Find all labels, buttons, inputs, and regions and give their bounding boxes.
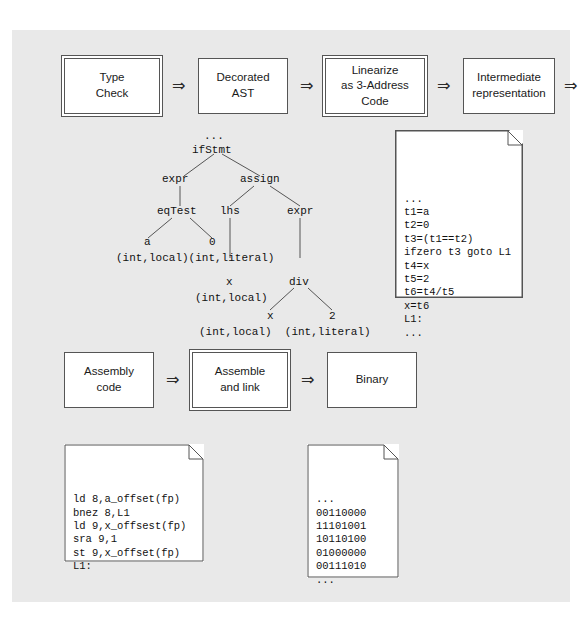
binary-code-document: ... 00110000 11101001 10110100 01000000 …	[307, 444, 399, 578]
three-address-code-text: ... t1=a t2=0 t3=(t1==t2) ifzero t3 goto…	[395, 184, 523, 340]
ast-leaf-a: a	[144, 236, 151, 248]
three-address-code-document: ... t1=a t2=0 t3=(t1==t2) ifzero t3 goto…	[395, 130, 523, 298]
ast-node-expr-right: expr	[287, 205, 313, 217]
stage-assembly-code[interactable]: Assembly code	[64, 352, 154, 408]
ast-annotation-eq-operands: (int,local)(int,literal)	[116, 252, 274, 264]
ast-leaf-x-lhs: x	[226, 276, 233, 288]
assembly-code-text: ld 8,a_offset(fp) bnez 8,L1 ld 9,x_offse…	[64, 484, 204, 573]
ast-leaf-x-div: x	[267, 310, 274, 322]
ast-leaf-two: 2	[329, 310, 336, 322]
ast-node-lhs: lhs	[220, 205, 240, 217]
stage-intermediate-representation[interactable]: Intermediate representation	[463, 58, 555, 114]
assembly-code-document: ld 8,a_offset(fp) bnez 8,L1 ld 9,x_offse…	[64, 444, 204, 562]
ast-node-assign: assign	[240, 173, 280, 185]
ast-node-eqtest: eqTest	[157, 205, 197, 217]
arrow-icon-bottom-1: ⇒	[166, 372, 179, 388]
ast-leaf-zero: 0	[209, 236, 216, 248]
ast-node-div: div	[289, 276, 309, 288]
stage-binary[interactable]: Binary	[327, 352, 417, 408]
ast-node-ifstmt: ifStmt	[192, 144, 232, 156]
diagram-canvas: Type Check ⇒ Decorated AST ⇒ Linearize a…	[12, 30, 570, 602]
arrow-icon-top-3: ⇒	[437, 78, 450, 94]
binary-code-text: ... 00110000 11101001 10110100 01000000 …	[307, 484, 399, 587]
ast-annotation-lhs-type: (int,local)	[195, 292, 268, 304]
stage-assemble-and-link[interactable]: Assemble and link	[192, 352, 288, 408]
decorated-ast-tree: ... ifStmt expr assign eqTest lhs expr a…	[12, 30, 412, 260]
arrow-icon-top-4: ⇒	[564, 78, 577, 94]
ast-node-expr-left: expr	[162, 173, 188, 185]
arrow-icon-bottom-2: ⇒	[301, 372, 314, 388]
ast-ellipsis-top: ...	[204, 130, 224, 142]
ast-annotation-div-operands: (int,local) (int,literal)	[199, 326, 371, 338]
